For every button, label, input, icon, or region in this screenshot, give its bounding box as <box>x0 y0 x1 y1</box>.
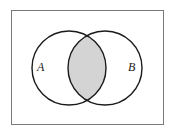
set-b-label: B <box>128 61 135 73</box>
set-a-label: A <box>37 61 44 73</box>
venn-diagram <box>0 0 169 134</box>
